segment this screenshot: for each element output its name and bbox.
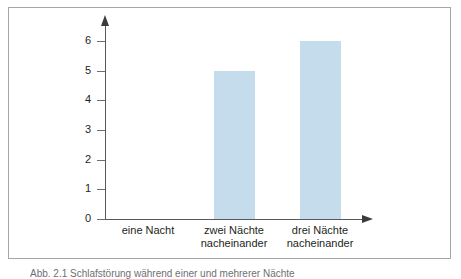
x-axis-category-label: zwei Nächtenacheinander [191, 224, 277, 250]
y-axis-tick [97, 219, 105, 220]
y-axis-tick-label: 2 [9, 154, 91, 165]
y-axis-tick [97, 130, 105, 131]
y-axis-tick-label: 4 [9, 94, 91, 105]
y-axis-tick-label: 6 [9, 35, 91, 46]
x-axis-category-label-line1: drei Nächte [292, 224, 348, 236]
y-axis-tick-label: 5 [9, 65, 91, 76]
y-axis-tick [97, 160, 105, 161]
y-axis-tick [97, 189, 105, 190]
x-axis-line [105, 219, 363, 220]
y-axis-tick-label-text: 1 [13, 183, 91, 194]
x-axis-category-label: drei Nächtenacheinander [277, 224, 363, 250]
chart-frame: 0123456 eine Nachtzwei Nächtenacheinande… [8, 7, 451, 259]
y-axis-tick-label-text: 0 [13, 213, 91, 224]
figure-root: 0123456 eine Nachtzwei Nächtenacheinande… [0, 0, 461, 279]
x-axis-arrow-icon [362, 215, 373, 223]
y-axis-tick-label: 0 [9, 213, 91, 224]
x-axis-category-label-line2: nacheinander [277, 237, 363, 250]
y-axis-tick-label-text: 5 [13, 65, 91, 76]
bars-layer [105, 24, 363, 219]
figure-caption: Abb. 2.1 Schlafstörung während einer und… [30, 268, 455, 279]
y-axis-tick [97, 41, 105, 42]
x-axis-category-label: eine Nacht [105, 224, 191, 237]
x-axis-category-label-line1: zwei Nächte [204, 224, 264, 236]
y-axis-tick [97, 71, 105, 72]
x-axis-category-label-line1: eine Nacht [122, 224, 175, 236]
y-axis-tick-label-text: 4 [13, 94, 91, 105]
y-axis-tick-label-text: 2 [13, 154, 91, 165]
y-axis-tick-label-text: 6 [13, 35, 91, 46]
x-axis-labels: eine Nachtzwei Nächtenacheinanderdrei Nä… [105, 224, 363, 258]
plot-area: 0123456 eine Nachtzwei Nächtenacheinande… [9, 8, 450, 258]
y-axis-tick [97, 100, 105, 101]
y-axis-tick-label: 1 [9, 183, 91, 194]
y-axis-tick-label-text: 3 [13, 124, 91, 135]
bar [214, 71, 255, 219]
x-axis-category-label-line2: nacheinander [191, 237, 277, 250]
y-axis-tick-label: 3 [9, 124, 91, 135]
bar [300, 41, 341, 219]
